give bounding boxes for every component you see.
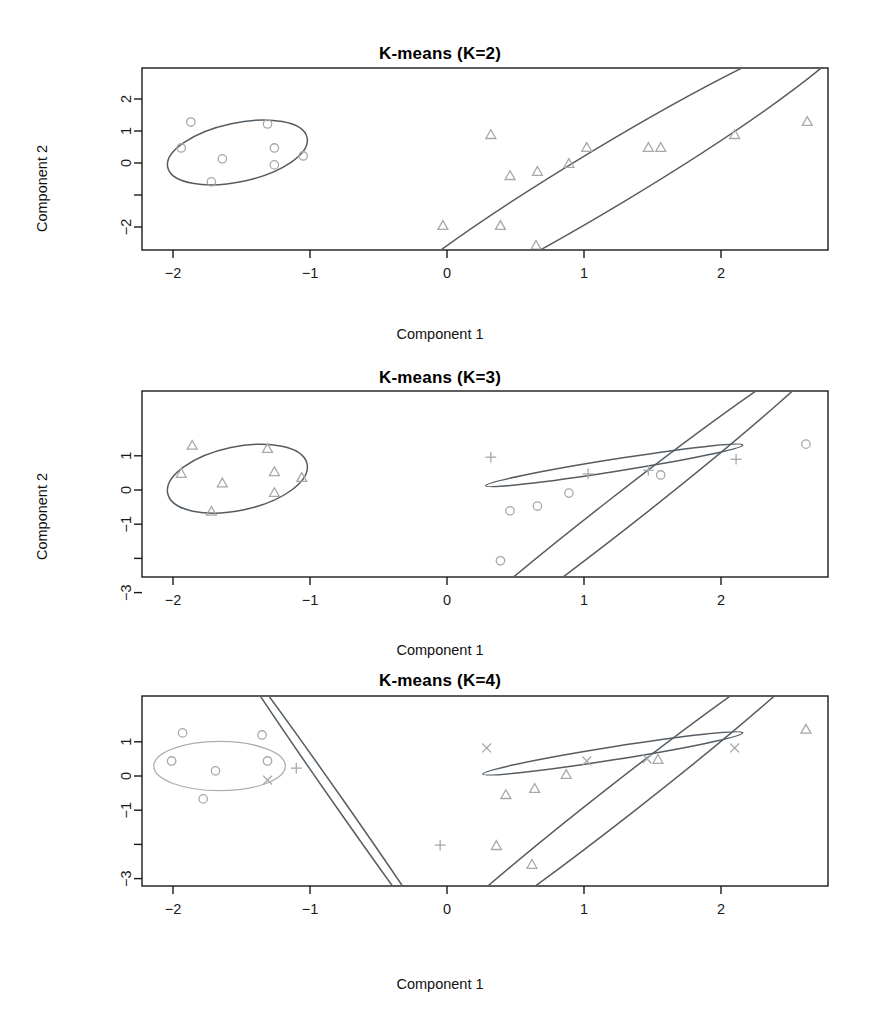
y-tick-label: 0 — [118, 772, 134, 780]
panel-kmeans-k2: K-means (K=2) Component 2 Component 1 −2… — [0, 0, 880, 345]
data-point-circle — [802, 440, 810, 448]
x-tick-label: −2 — [165, 265, 182, 281]
data-point-circle — [263, 120, 271, 128]
scatter-plot-k2: −2−1012210−2 — [0, 50, 880, 350]
plot-frame — [142, 391, 828, 577]
data-point-circle — [496, 557, 504, 565]
data-point-triangle — [491, 841, 501, 850]
cluster-ellipse — [392, 332, 844, 695]
data-point-triangle — [582, 143, 592, 152]
data-point-circle — [199, 795, 207, 803]
data-point-triangle — [530, 784, 540, 793]
data-point-circle — [187, 118, 195, 126]
y-tick-label: −1 — [118, 516, 134, 533]
data-point-triangle — [527, 860, 537, 869]
data-point-triangle — [653, 755, 663, 764]
x-tick-label: 2 — [717, 265, 725, 281]
data-point-triangle — [802, 117, 812, 126]
cluster-ellipse — [347, 2, 871, 349]
scatter-plot-k4: −2−101210−1−3 — [0, 678, 880, 968]
x-tick-label: 1 — [580, 592, 588, 608]
data-point-circle — [258, 731, 266, 739]
data-point-circle — [218, 155, 226, 163]
cluster-ellipse — [162, 109, 314, 196]
cluster-ellipse — [225, 642, 456, 966]
x-tick-label: 2 — [717, 901, 725, 917]
data-point-triangle — [176, 469, 186, 478]
x-tick-label: 1 — [580, 265, 588, 281]
y-tick-label: 1 — [118, 738, 134, 746]
y-tick-label: −1 — [118, 802, 134, 819]
y-tick-label: −3 — [118, 870, 134, 887]
data-point-triangle — [269, 467, 279, 476]
scatter-plot-k3: −2−101210−1−3 — [0, 373, 880, 653]
data-point-triangle — [801, 724, 811, 733]
data-point-circle — [167, 757, 175, 765]
cluster-ellipse — [154, 741, 286, 790]
y-tick-label: 0 — [118, 486, 134, 494]
data-point-circle — [657, 471, 665, 479]
plot-frame — [142, 68, 828, 250]
plot-frame — [142, 696, 828, 886]
data-point-circle — [263, 757, 271, 765]
data-point-triangle — [486, 130, 496, 139]
panel-kmeans-k3: K-means (K=3) Component 2 Component 1 −2… — [0, 345, 880, 675]
data-point-circle — [299, 152, 307, 160]
cluster-ellipse — [161, 433, 314, 525]
x-axis-label-k4: Component 1 — [0, 976, 880, 992]
data-point-circle — [565, 489, 573, 497]
data-point-circle — [533, 502, 541, 510]
x-tick-label: 0 — [443, 592, 451, 608]
data-point-circle — [270, 144, 278, 152]
data-point-triangle — [533, 167, 543, 176]
data-point-triangle — [438, 221, 448, 230]
data-point-triangle — [643, 143, 653, 152]
panel-kmeans-k4: K-means (K=4) Component 2 Component 1 −2… — [0, 660, 880, 1030]
y-tick-label: 1 — [118, 127, 134, 135]
data-point-circle — [506, 507, 514, 515]
x-tick-label: −1 — [302, 901, 319, 917]
x-tick-label: 1 — [580, 901, 588, 917]
y-tick-label: 0 — [118, 159, 134, 167]
x-tick-label: −1 — [302, 265, 319, 281]
data-point-triangle — [269, 488, 279, 497]
y-tick-label: 1 — [118, 452, 134, 460]
data-point-circle — [533, 578, 541, 586]
data-point-triangle — [656, 143, 666, 152]
y-tick-label: −3 — [118, 584, 134, 601]
data-point-triangle — [496, 221, 506, 230]
x-tick-label: −1 — [302, 592, 319, 608]
data-point-triangle — [531, 241, 541, 250]
x-tick-label: 2 — [717, 592, 725, 608]
data-point-triangle — [505, 171, 515, 180]
x-tick-label: −2 — [165, 592, 182, 608]
data-point-triangle — [217, 478, 227, 487]
x-tick-label: −2 — [165, 901, 182, 917]
data-point-triangle — [187, 441, 197, 450]
data-point-circle — [270, 161, 278, 169]
cluster-ellipse — [482, 726, 744, 780]
data-point-triangle — [561, 770, 571, 779]
x-tick-label: 0 — [443, 265, 451, 281]
y-tick-label: −2 — [118, 219, 134, 236]
data-point-triangle — [501, 790, 511, 799]
y-tick-label: 2 — [118, 95, 134, 103]
data-point-circle — [178, 729, 186, 737]
data-point-circle — [211, 767, 219, 775]
x-tick-label: 0 — [443, 901, 451, 917]
